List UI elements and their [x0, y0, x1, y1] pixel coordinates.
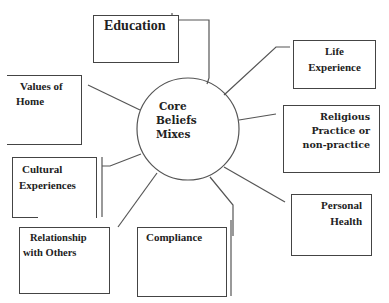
connector-education [178, 20, 209, 84]
core-label: Core Beliefs Mixes [156, 99, 197, 141]
node-life-experience-label: Life Experience [293, 43, 376, 75]
connector-values-of-home [88, 85, 140, 110]
connector-life-experience [224, 47, 290, 95]
node-relationship-with-others-label: Relationship with Others [28, 230, 87, 260]
node-personal-health-label: Personal Health [296, 197, 362, 229]
connector-personal-health [224, 167, 285, 202]
connector-relationship-with-others [118, 173, 157, 227]
node-religious-practice-label: Religious Practice or non-practice [286, 110, 370, 152]
concept-map: Education Values of Home Cultural Experi… [0, 0, 389, 303]
connector-cultural-experiences [102, 154, 141, 166]
node-values-of-home-label: Values of Home [16, 79, 63, 109]
node-compliance-label: Compliance [146, 231, 202, 244]
node-education-label: Education [104, 18, 165, 34]
node-cultural-experiences-label: Cultural Experiences [19, 161, 76, 193]
cultural-box-bottom-segment [12, 217, 38, 218]
connector-religious-practice [239, 114, 276, 120]
